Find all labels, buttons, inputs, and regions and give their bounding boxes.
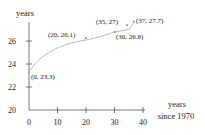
x-tick-label: 30 (111, 118, 119, 127)
point-label: (20, 26.1) (48, 31, 76, 39)
point-label: (0, 23.3) (31, 73, 56, 81)
x-tick-label: 20 (82, 118, 90, 127)
x-axis-title-line2: since 1970 (158, 111, 195, 121)
data-point (133, 20, 135, 22)
y-tick-label: 26 (8, 37, 16, 46)
y-tick-label: 24 (8, 60, 16, 69)
data-point (126, 24, 128, 26)
y-tick-label: 20 (8, 106, 16, 115)
x-axis-title-line1: years (168, 99, 186, 109)
point-label: (37, 27.7) (136, 17, 164, 25)
y-axis-title: years (16, 8, 34, 18)
x-tick-label: 40 (139, 118, 147, 127)
data-points (28, 20, 135, 73)
point-label: (30, 26.8) (116, 33, 144, 41)
chart: (0, 23.3) (20, 26.1) (30, 26.8) (35, 27)… (0, 0, 205, 135)
x-tick-label: 0 (27, 118, 31, 127)
data-point (28, 71, 30, 73)
data-point (85, 37, 87, 39)
point-label: (35, 27) (96, 18, 119, 26)
x-tick-label: 10 (54, 118, 62, 127)
data-curve (29, 22, 135, 73)
y-tick-label: 22 (8, 83, 16, 92)
